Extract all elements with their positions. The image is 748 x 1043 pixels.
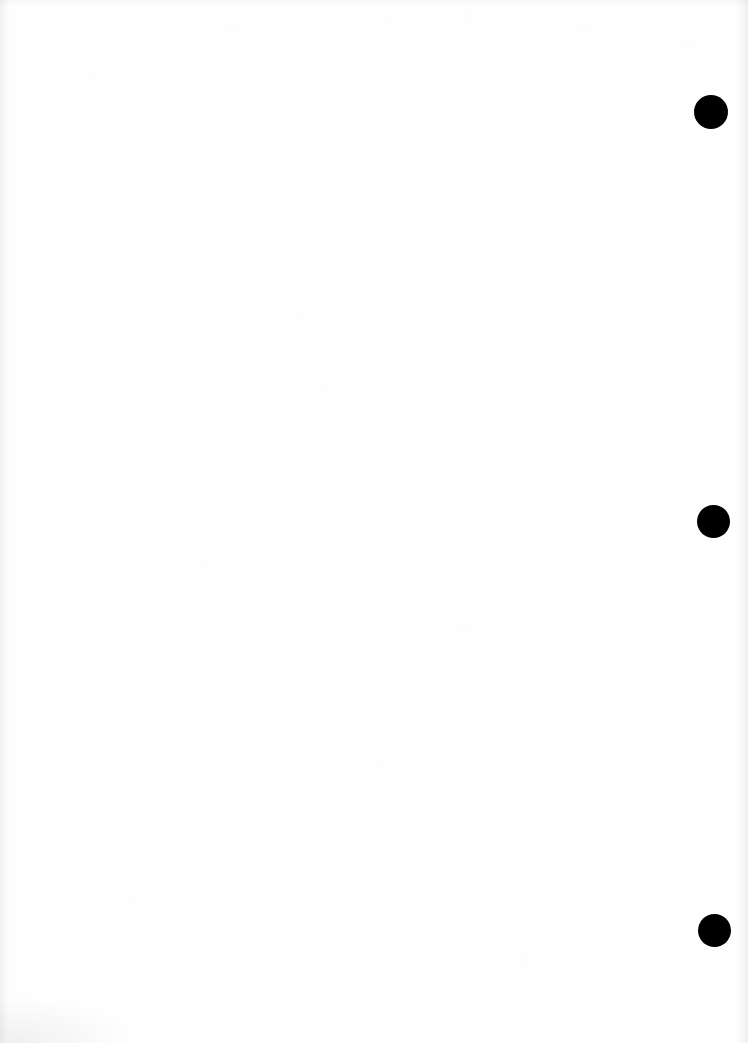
binder-dot-middle-icon <box>697 505 730 538</box>
binder-dot-top-icon <box>694 95 728 129</box>
scan-edge-top-artifact <box>0 0 748 7</box>
scanned-page <box>0 0 748 1043</box>
scan-edge-left-artifact <box>0 0 9 1043</box>
paper-grain-noise <box>0 0 748 1043</box>
scan-edge-right-artifact <box>736 0 748 1043</box>
scan-smudge-bottom-left <box>0 997 130 1043</box>
binder-dot-bottom-icon <box>698 914 731 947</box>
